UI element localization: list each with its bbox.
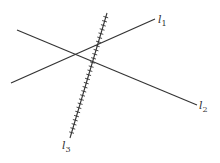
line-l3-hatch-marks	[69, 16, 108, 133]
line-l3	[70, 13, 107, 138]
diagram-canvas	[0, 0, 220, 163]
label-l1: l1	[158, 14, 167, 28]
label-l2: l2	[199, 100, 208, 114]
line-l1	[11, 19, 155, 83]
line-l2	[17, 30, 197, 105]
lines-diagram: l1 l2 l3	[0, 0, 220, 163]
label-l3: l3	[62, 140, 71, 154]
